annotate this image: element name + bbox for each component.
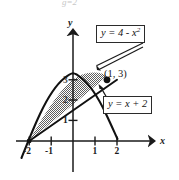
point-label-1-3: (1, 3) [104,69,127,80]
y-tick-label-2: 2 [63,96,68,106]
equation-label-line: y = x + 2 [103,96,152,114]
y-tick-label-1: 1 [63,116,68,126]
x-tick-label-neg2: -2 [23,147,31,157]
shaded-region [29,72,107,141]
x-axis-label: x [160,136,165,146]
equation-label-parabola: y = 4 - x2 [96,25,145,43]
x-tick-label-2: 2 [115,147,120,157]
point-marker-neg2-0 [27,139,32,144]
y-axis-label: y [68,18,72,28]
y-tick-label-3: 3 [63,76,68,86]
x-tick-label-neg1: -1 [45,147,53,157]
equation-text-line: y = x + 2 [108,98,147,109]
parabola-leader-line [96,43,143,71]
math-figure: g=2 [0,0,179,180]
x-tick-label-1: 1 [93,147,98,157]
equation-exponent-parabola: 2 [137,26,141,34]
equation-text-parabola: y = 4 - x [101,27,137,38]
